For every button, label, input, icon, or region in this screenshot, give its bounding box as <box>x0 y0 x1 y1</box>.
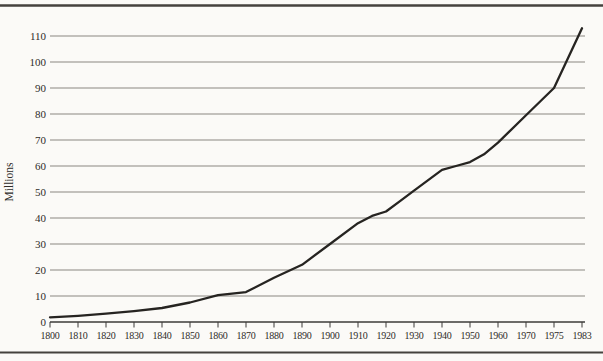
x-tick-label: 1920 <box>376 330 395 341</box>
y-tick-label: 110 <box>30 30 47 42</box>
y-tick-label: 10 <box>35 290 47 302</box>
x-tick-label: 1940 <box>432 330 451 341</box>
y-axis-group: 0102030405060708090100110 <box>30 30 47 328</box>
data-curve <box>50 28 582 317</box>
x-tick-label: 1970 <box>516 330 535 341</box>
x-tick-label: 1810 <box>68 330 87 341</box>
x-tick-label: 1960 <box>488 330 507 341</box>
chart-svg: 0102030405060708090100110 18001810182018… <box>0 0 603 361</box>
x-tick-label: 1840 <box>152 330 171 341</box>
y-tick-label: 20 <box>35 264 47 276</box>
y-tick-label: 70 <box>35 134 47 146</box>
x-tick-label: 1860 <box>208 330 227 341</box>
y-tick-label: 30 <box>35 238 47 250</box>
x-tick-label: 1890 <box>292 330 311 341</box>
x-axis-group: 1800181018201830184018501860187018801890… <box>40 322 591 341</box>
figure-container: 0102030405060708090100110 18001810182018… <box>0 0 603 361</box>
x-tick-label: 1983 <box>572 330 591 341</box>
x-tick-label: 1800 <box>40 330 59 341</box>
x-tick-label: 1880 <box>264 330 283 341</box>
y-tick-label: 40 <box>35 212 47 224</box>
gridlines-group <box>50 36 585 322</box>
x-tick-label: 1950 <box>460 330 479 341</box>
y-tick-label: 80 <box>35 108 47 120</box>
x-tick-label: 1930 <box>404 330 423 341</box>
x-tick-label: 1850 <box>180 330 199 341</box>
x-tick-label: 1820 <box>96 330 115 341</box>
x-tick-label: 1830 <box>124 330 143 341</box>
x-tick-label: 1900 <box>320 330 339 341</box>
x-tick-label: 1870 <box>236 330 255 341</box>
y-tick-label: 90 <box>35 82 47 94</box>
y-tick-label: 50 <box>35 186 47 198</box>
y-tick-label: 100 <box>30 56 47 68</box>
y-tick-label: 60 <box>35 160 47 172</box>
y-tick-label: 0 <box>41 316 47 328</box>
x-tick-label: 1975 <box>544 330 563 341</box>
y-axis-title: Millions <box>3 162 15 202</box>
x-tick-label: 1910 <box>348 330 367 341</box>
